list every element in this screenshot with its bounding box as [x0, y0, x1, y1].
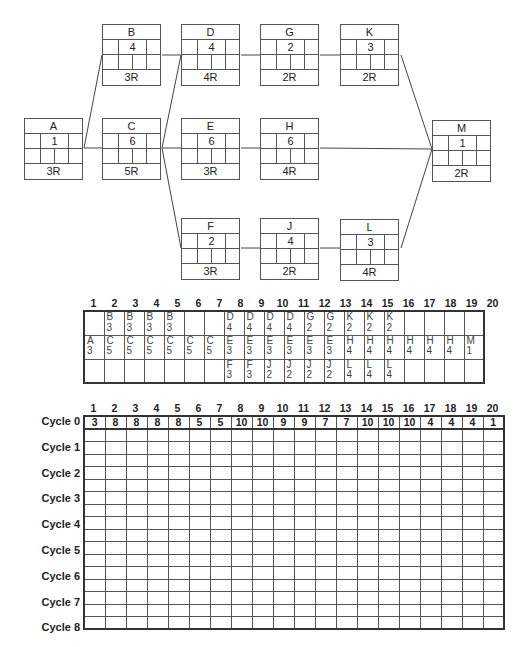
resource-cell — [126, 479, 147, 492]
schedule-cell: D4 — [244, 311, 264, 335]
resource-cell — [462, 479, 483, 492]
resource-cell — [357, 592, 378, 605]
resource-cell — [462, 429, 483, 442]
resource-cell — [210, 442, 231, 455]
resource-cell — [231, 504, 252, 517]
activity-resource: 2 — [387, 323, 404, 334]
schedule-row: B3B3B3B3D4D4D4D4G2G2K2K2K2 — [84, 311, 484, 335]
resource-cell — [105, 579, 126, 592]
activity-id: B — [127, 312, 144, 323]
activity-resource: 4 — [447, 346, 464, 357]
resource-cell — [168, 467, 189, 480]
resource-cell — [105, 592, 126, 605]
resource-cell — [336, 479, 357, 492]
resource-cell — [105, 454, 126, 467]
resource-cell — [357, 504, 378, 517]
resource-cell — [147, 567, 168, 580]
period-number: 16 — [398, 296, 419, 310]
resource-cell — [441, 429, 462, 442]
schedule-table: 1234567891011121314151617181920 B3B3B3B3… — [83, 296, 503, 384]
resource-cell — [315, 504, 336, 517]
resource-cell — [231, 467, 252, 480]
resource-cell — [105, 554, 126, 567]
resource-cell — [315, 592, 336, 605]
activity-resource: 3 — [267, 346, 284, 357]
schedule-cell: B3 — [104, 311, 124, 335]
activity-resource: 5 — [167, 346, 184, 357]
resource-cell — [420, 429, 441, 442]
resource-cell — [189, 504, 210, 517]
resource-cell — [147, 479, 168, 492]
period-number: 12 — [314, 296, 335, 310]
resource-cell — [357, 454, 378, 467]
schedule-cell: H4 — [404, 335, 424, 359]
resource-cell — [210, 592, 231, 605]
resource-cell — [441, 517, 462, 530]
resource-cell — [483, 592, 504, 605]
activity-id: G — [327, 312, 344, 323]
resource-cell — [126, 554, 147, 567]
cycle-row — [84, 542, 504, 555]
resource-cell: 9 — [273, 416, 294, 429]
activity-id: B — [147, 312, 164, 323]
schedule-cell: E3 — [244, 335, 264, 359]
cycle-label: Cycle 3 — [30, 492, 80, 504]
resource-cell — [210, 454, 231, 467]
resource-cell — [294, 479, 315, 492]
node-resources: 3R — [182, 264, 239, 279]
schedule-cell: C5 — [144, 335, 164, 359]
resource-cell — [147, 604, 168, 617]
resource-cell — [126, 467, 147, 480]
resource-cell — [357, 467, 378, 480]
activity-node-b: B 4 3R — [102, 24, 161, 86]
period-number: 4 — [146, 401, 167, 415]
cycle-label: Cycle 7 — [30, 596, 80, 608]
schedule-cell: K2 — [364, 311, 384, 335]
schedule-cell: H4 — [344, 335, 364, 359]
schedule-grid: B3B3B3B3D4D4D4D4G2G2K2K2K2A3C5C5C5C5C5C5… — [83, 310, 485, 384]
activity-resource: 4 — [347, 346, 364, 357]
schedule-cell — [204, 359, 224, 383]
activity-resource: 4 — [387, 370, 404, 381]
node-duration: 2 — [198, 234, 226, 248]
resource-cell — [420, 442, 441, 455]
schedule-cell: E3 — [264, 335, 284, 359]
activity-resource: 5 — [147, 346, 164, 357]
resource-cell — [252, 442, 273, 455]
resource-cell — [210, 554, 231, 567]
resource-cell — [210, 429, 231, 442]
activity-node-g: G 2 2R — [260, 24, 319, 86]
node-duration: 6 — [119, 134, 147, 148]
resource-cell — [84, 592, 105, 605]
resource-cell — [126, 492, 147, 505]
resource-cell — [378, 504, 399, 517]
node-duration: 1 — [449, 136, 477, 150]
period-header: 1234567891011121314151617181920 — [83, 296, 503, 310]
schedule-cell — [444, 359, 464, 383]
resource-cell — [126, 579, 147, 592]
period-number: 10 — [272, 296, 293, 310]
resource-cell — [168, 542, 189, 555]
resource-cell — [441, 542, 462, 555]
resource-cell — [126, 504, 147, 517]
resource-cell — [126, 529, 147, 542]
resource-cell — [231, 517, 252, 530]
schedule-cell — [84, 359, 104, 383]
schedule-cell: M1 — [464, 335, 484, 359]
resource-cell — [357, 567, 378, 580]
period-number: 14 — [356, 401, 377, 415]
resource-cell — [231, 529, 252, 542]
activity-resource: 2 — [327, 323, 344, 334]
activity-resource: 4 — [227, 323, 244, 334]
resource-cell — [168, 554, 189, 567]
resource-cell — [336, 517, 357, 530]
resource-cell — [189, 604, 210, 617]
schedule-cell: C5 — [184, 335, 204, 359]
resource-cell — [105, 617, 126, 630]
resource-cell — [273, 604, 294, 617]
cycle-row: 3888855101099771010104441 — [84, 416, 504, 429]
resource-cell — [399, 504, 420, 517]
cycle-row — [84, 479, 504, 492]
resource-cell — [189, 492, 210, 505]
resource-cell — [483, 567, 504, 580]
